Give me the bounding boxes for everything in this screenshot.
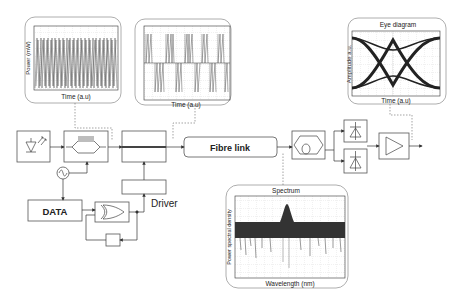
spectrum-inset: Spectrum Power spectral density Waveleng…: [226, 185, 348, 288]
eye-diagram-title: Eye diagram: [380, 21, 417, 29]
driver-block: [122, 180, 166, 194]
signal-plot-inset: Time (a.u): [135, 19, 231, 109]
fibre-link-label: Fibre link: [210, 143, 251, 153]
delay-block: [106, 234, 120, 246]
power-plot-xlabel: Time (a.u): [61, 93, 90, 101]
driver-label: Driver: [151, 198, 178, 209]
signal-plot-xlabel: Time (a.u): [171, 101, 200, 109]
amplifier-block: [379, 133, 409, 159]
power-plot-inset: Power (mW) Time (a.u): [25, 17, 121, 103]
eye-diagram-xlabel: Time (a.u): [381, 97, 410, 105]
eye-diagram-ylabel: Amplitude a.u.: [346, 44, 352, 83]
power-plot-ylabel: Power (mW): [25, 41, 31, 74]
mz-modulator-block: [64, 131, 108, 162]
spectrum-xlabel: Wavelength (nm): [265, 280, 314, 288]
data-label: DATA: [43, 206, 68, 217]
main-diagram: [17, 120, 409, 246]
spectrum-ylabel: Power spectral density: [226, 209, 232, 265]
block-diagram: Power (mW) Time (a.u) Time (a.u) Eye dia…: [0, 0, 459, 303]
spectrum-title: Spectrum: [272, 187, 300, 195]
eye-diagram-inset: Eye diagram Amplitude a.u. Time (a.u): [346, 18, 446, 105]
